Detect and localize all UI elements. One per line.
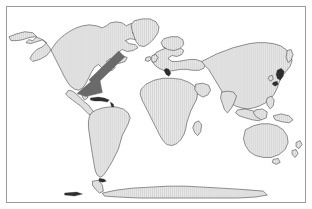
page-title: World map with location pointer <box>0 21 1 22</box>
map-figure-page: World map with location pointer <box>0 0 312 209</box>
map-frame <box>6 6 306 203</box>
location-arrow[interactable] <box>7 7 305 202</box>
arrow-pointer-graphic <box>77 51 125 97</box>
arrow-head <box>77 75 102 97</box>
